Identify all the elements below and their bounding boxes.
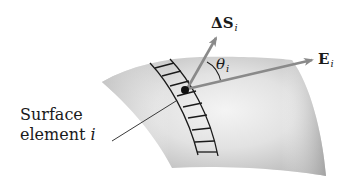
area-vector-symbol: ΔS: [211, 14, 233, 32]
surface-element-label: Surface element i: [20, 105, 96, 145]
surface-element-word: element: [20, 125, 85, 144]
flux-diagram: ΔSi θi Ei Surface element i: [0, 0, 363, 183]
angle-symbol: θ: [216, 55, 225, 73]
field-vector-symbol: E: [318, 50, 329, 68]
surface-element-line2: element i: [20, 125, 96, 145]
area-vector-label: ΔSi: [211, 16, 238, 33]
surface-element-index: i: [91, 125, 96, 144]
diagram-graphic: [0, 0, 363, 183]
surface-element-line1: Surface: [20, 105, 96, 125]
field-vector-label: Ei: [318, 52, 334, 69]
angle-label: θi: [216, 57, 229, 74]
angle-subscript: i: [226, 63, 229, 74]
surface-point-dot: [181, 86, 189, 94]
area-vector-subscript: i: [234, 22, 237, 33]
field-vector-subscript: i: [330, 58, 333, 69]
